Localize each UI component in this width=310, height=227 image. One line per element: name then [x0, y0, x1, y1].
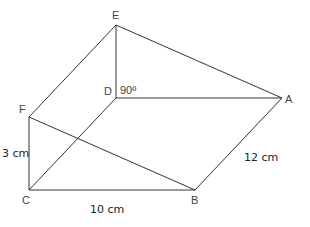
right-angle-label: 90º [120, 84, 136, 96]
prism-diagram: E D F C A B 90º 3 cm 10 cm 12 cm [0, 0, 310, 227]
edge-FB [29, 117, 195, 190]
measure-CB: 10 cm [90, 203, 124, 216]
vertex-label-F: F [19, 103, 26, 115]
vertex-label-A: A [285, 93, 293, 105]
vertex-label-C: C [22, 194, 30, 206]
edge-DC [29, 98, 116, 190]
edge-BA [195, 98, 282, 190]
measure-BA: 12 cm [244, 151, 278, 164]
measure-FC: 3 cm [2, 147, 29, 160]
vertex-label-D: D [104, 85, 112, 97]
edge-EF [29, 25, 116, 117]
vertex-label-E: E [112, 9, 119, 21]
edge-EA [116, 25, 282, 98]
vertex-label-B: B [191, 194, 198, 206]
